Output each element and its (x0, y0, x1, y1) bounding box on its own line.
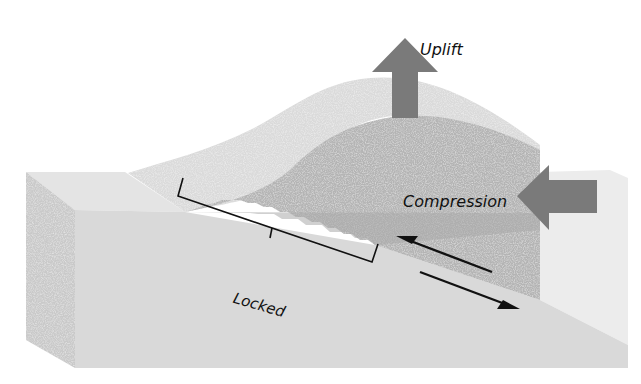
fault-block-diagram (0, 0, 641, 384)
uplift-label: Uplift (420, 40, 463, 59)
compression-label: Compression (403, 192, 507, 211)
